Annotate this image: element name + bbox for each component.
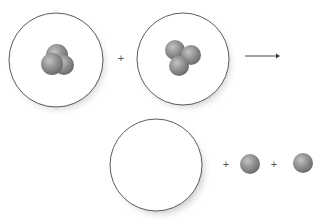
nucleon-sphere <box>41 53 63 75</box>
reactant-nucleus-1 <box>6 11 112 117</box>
plus-operator-3: + <box>271 158 277 170</box>
plus-operator-1: + <box>118 52 124 64</box>
nuclear-reaction-diagram: + + + <box>0 0 326 221</box>
arrow-head-icon <box>276 54 280 59</box>
product-particle-1 <box>240 154 260 174</box>
plus-operator-2: + <box>223 158 229 170</box>
nucleon-sphere <box>169 56 189 76</box>
product-nucleus <box>108 118 212 221</box>
nucleus-boundary-circle <box>110 119 202 211</box>
product-particle-2 <box>293 153 313 173</box>
reaction-arrow <box>245 54 280 59</box>
reactant-nucleus-2 <box>134 11 238 115</box>
